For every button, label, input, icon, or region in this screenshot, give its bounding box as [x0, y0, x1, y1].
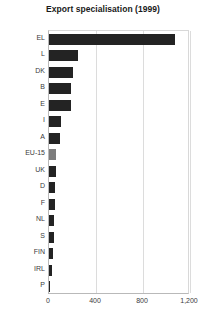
- y-tick-label-b: B: [0, 83, 45, 91]
- bar-irl[interactable]: [49, 265, 52, 276]
- y-tick-label-uk: UK: [0, 166, 45, 174]
- y-tick-label-s: S: [0, 232, 45, 240]
- bar-l[interactable]: [49, 50, 78, 61]
- bar-el[interactable]: [49, 34, 175, 45]
- bars-layer: [49, 31, 188, 293]
- bar-i[interactable]: [49, 116, 61, 127]
- x-tick-label-800: 800: [136, 296, 148, 305]
- bar-uk[interactable]: [49, 166, 56, 177]
- bar-p[interactable]: [49, 281, 50, 292]
- x-tick-label-0: 0: [46, 296, 50, 305]
- bar-nl[interactable]: [49, 215, 54, 226]
- y-tick-label-nl: NL: [0, 215, 45, 223]
- x-tick-label-1200: 1,200: [180, 296, 198, 305]
- gridline: [190, 31, 191, 293]
- y-tick-label-a: A: [0, 133, 45, 141]
- y-tick-label-i: I: [0, 116, 45, 124]
- y-tick-label-p: P: [0, 281, 45, 289]
- y-tick-label-e: E: [0, 100, 45, 108]
- bar-fin[interactable]: [49, 248, 53, 259]
- bar-e[interactable]: [49, 100, 71, 111]
- x-axis-labels: 04008001,200: [0, 296, 206, 310]
- y-tick-label-el: EL: [0, 34, 45, 42]
- y-tick-label-d: D: [0, 182, 45, 190]
- bar-dk[interactable]: [49, 67, 73, 78]
- bar-a[interactable]: [49, 133, 60, 144]
- bar-b[interactable]: [49, 83, 71, 94]
- y-tick-label-f: F: [0, 199, 45, 207]
- bar-d[interactable]: [49, 182, 55, 193]
- plot-area: [48, 30, 189, 294]
- bar-s[interactable]: [49, 232, 54, 243]
- y-tick-label-irl: IRL: [0, 265, 45, 273]
- y-tick-label-fin: FIN: [0, 248, 45, 256]
- y-tick-label-l: L: [0, 50, 45, 58]
- bar-f[interactable]: [49, 199, 55, 210]
- chart-container: Export specialisation (1999) ELLDKBEIAEU…: [0, 0, 206, 324]
- x-tick-label-400: 400: [89, 296, 101, 305]
- y-tick-label-eu-15: EU-15: [0, 149, 45, 157]
- bar-eu-15[interactable]: [49, 149, 56, 160]
- chart-title: Export specialisation (1999): [0, 4, 206, 14]
- y-tick-label-dk: DK: [0, 67, 45, 75]
- y-axis-labels: ELLDKBEIAEU-15UKDFNLSFINIRLP: [0, 30, 45, 294]
